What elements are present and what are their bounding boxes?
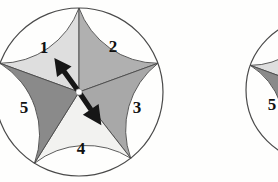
spinner-figure-svg: 123455 xyxy=(0,0,278,182)
spinner-left: 12345 xyxy=(0,8,163,176)
spinner-rim xyxy=(246,18,278,162)
spinner-sector-label-3: 3 xyxy=(133,98,142,117)
spinner-hub[interactable] xyxy=(76,89,82,95)
spinner-sector-label-4: 4 xyxy=(77,139,86,158)
spinner-sector-label-5: 5 xyxy=(20,98,29,117)
spinner-right: 5 xyxy=(246,18,278,162)
spinner-sector-label-2: 2 xyxy=(109,37,118,56)
figure-canvas: 123455 xyxy=(0,0,278,182)
spinner-sector-label-5: 5 xyxy=(268,95,277,114)
spinner-sector-label-1: 1 xyxy=(40,38,49,57)
